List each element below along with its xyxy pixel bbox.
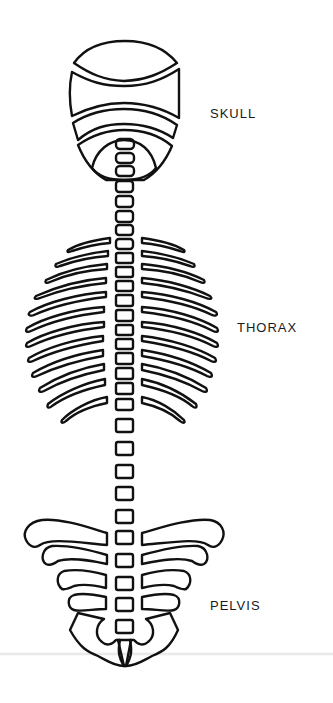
label-pelvis: PELVIS: [210, 598, 261, 613]
pelvis-left: [25, 520, 124, 666]
label-skull: SKULL: [210, 106, 256, 121]
spine-drawing: [116, 139, 134, 633]
label-thorax: THORAX: [237, 320, 297, 335]
skeleton-diagram: [0, 0, 333, 703]
ribs-right: [142, 238, 218, 423]
pelvis-right: [126, 520, 224, 666]
skull-drawing: [70, 41, 179, 180]
ribs-left: [26, 238, 110, 423]
